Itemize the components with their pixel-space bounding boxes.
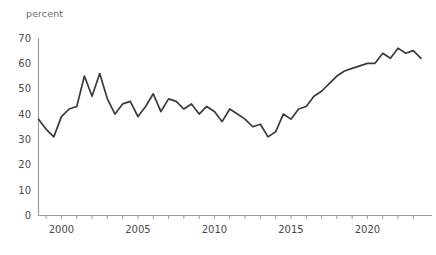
x-axis-tick-label: 2000 (49, 224, 74, 235)
x-axis-tick-label: 2015 (278, 224, 303, 235)
x-axis-tick-label: 2020 (355, 224, 380, 235)
y-axis-tick-label: 30 (18, 134, 31, 145)
data-series-line (39, 48, 422, 137)
y-axis-tick-label: 0 (25, 210, 31, 221)
y-axis-tick-label: 20 (18, 159, 31, 170)
y-axis-tick-label: 50 (18, 83, 31, 94)
y-axis-tick-label: 40 (18, 109, 31, 120)
y-axis-tick-labels: 010203040506070 (18, 33, 31, 222)
y-axis-group: 010203040506070 (18, 33, 38, 222)
y-axis-tick-label: 70 (18, 33, 31, 44)
line-chart-plot: 010203040506070 20002005201020152020 (0, 0, 436, 255)
x-axis-tick-labels: 20002005201020152020 (49, 224, 380, 235)
chart-container: percent 010203040506070 2000200520102015… (0, 0, 436, 255)
y-axis-tick-label: 10 (18, 185, 31, 196)
y-axis-tick-label: 60 (18, 58, 31, 69)
x-axis-group: 20002005201020152020 (39, 216, 433, 235)
x-axis-tick-label: 2010 (202, 224, 227, 235)
x-axis-tick-label: 2005 (125, 224, 150, 235)
